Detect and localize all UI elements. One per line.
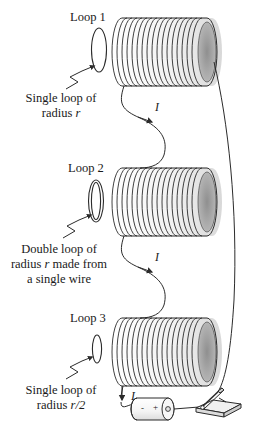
loop-3-caption-line2: radius r/2 bbox=[2, 398, 120, 413]
loop-1-title: Loop 1 bbox=[52, 10, 124, 25]
connector-wire-2-3 bbox=[121, 236, 165, 318]
loop-2-caption-radius-suffix: made from bbox=[49, 257, 107, 271]
solenoid-3 bbox=[112, 318, 222, 386]
loop-2-shape bbox=[89, 180, 104, 222]
loop-1-leader bbox=[66, 71, 82, 89]
current-label-top: I bbox=[155, 100, 159, 115]
loop-2-title: Loop 2 bbox=[50, 161, 122, 176]
loop-3-title: Loop 3 bbox=[52, 311, 124, 326]
loop-1-caption-radius-prefix: radius bbox=[42, 106, 76, 120]
solenoid-2 bbox=[112, 168, 222, 236]
loop-2-leader bbox=[63, 220, 79, 238]
battery-negative-terminal: - bbox=[141, 403, 144, 413]
current-label-middle: I bbox=[155, 250, 159, 265]
loop-1-leader-arrow bbox=[82, 66, 94, 71]
loop-2-leader-arrow bbox=[79, 215, 91, 220]
loop-3-caption-line1: Single loop of bbox=[2, 383, 120, 398]
loop-1-shape bbox=[92, 28, 107, 72]
connector-wire-1-2 bbox=[121, 86, 165, 168]
loop-3-shape bbox=[92, 335, 101, 363]
figure-drawing bbox=[0, 0, 254, 421]
loop-2-caption-line3: a single wire bbox=[0, 272, 118, 287]
loop-1-caption-line1: Single loop of bbox=[2, 91, 120, 106]
loop-3-caption-radius-value: r/2 bbox=[71, 398, 86, 412]
current-arrow-top bbox=[138, 117, 152, 122]
solenoid-1 bbox=[112, 18, 222, 86]
loop-2-caption-line2: radius r made from bbox=[0, 257, 118, 272]
loop-2-caption-line1: Double loop of bbox=[0, 242, 118, 257]
current-label-bottom: I bbox=[131, 389, 135, 404]
physics-figure-solenoids: Loop 1 Single loop of radius r Loop 2 Do… bbox=[0, 0, 254, 421]
loop-3-leader-arrow bbox=[82, 357, 92, 361]
loop-1-caption-radius-value: r bbox=[75, 106, 80, 120]
knife-switch[interactable] bbox=[196, 388, 241, 417]
loop-2-caption-radius-prefix: radius bbox=[11, 257, 45, 271]
loop-3-caption-radius-prefix: radius bbox=[37, 398, 71, 412]
loop-1-caption-line2: radius r bbox=[2, 106, 120, 121]
loop-3-leader bbox=[66, 361, 82, 379]
current-arrow-middle bbox=[138, 267, 152, 272]
battery-positive-terminal: + bbox=[153, 402, 158, 412]
